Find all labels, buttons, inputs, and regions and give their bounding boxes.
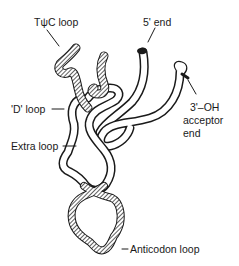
anticodon-loop-shape [72, 186, 121, 250]
trna-diagram [0, 0, 239, 266]
five-end-label: 5' end [143, 16, 171, 28]
d-arm-shape [92, 56, 105, 94]
five-end-cap [137, 48, 147, 54]
central-body [63, 88, 119, 190]
three-oh-label-line2: acceptor [183, 114, 223, 126]
three-oh-label-line1: 3'–OH [190, 101, 219, 113]
three-end-pointer [188, 80, 196, 94]
five-end-pointer [148, 28, 155, 42]
tpsic-pointer [47, 30, 59, 46]
d-loop-label: 'D' loop [11, 103, 45, 115]
extra-loop-label: Extra loop [11, 140, 58, 152]
anticodon-loop-label: Anticodon loop [130, 243, 199, 255]
three-oh-label-line3: end [183, 127, 201, 139]
tpsic-loop-label: TψC loop [34, 16, 78, 28]
